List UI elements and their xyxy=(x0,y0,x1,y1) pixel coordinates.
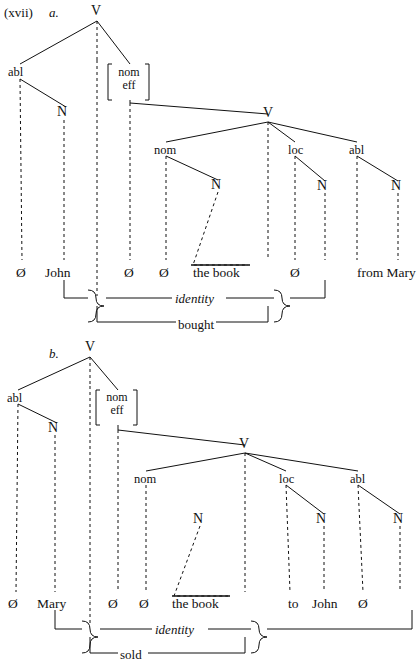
panel-a-brace-left-arm xyxy=(64,280,88,298)
panel-b-edge-loc-n xyxy=(286,485,324,514)
panel-b-proj-abl2 xyxy=(358,485,363,592)
panel-a-edge-bracket-innerv xyxy=(130,103,268,114)
panel-b-edge-abl-n xyxy=(18,404,57,423)
panel-a-triangle-sides xyxy=(193,192,248,265)
panel-a-verb-line-right xyxy=(216,306,268,322)
panel-a-brace-right-arm xyxy=(290,280,325,298)
panel-b-triangle-sides xyxy=(174,526,228,596)
panel-a-edge-root-abl xyxy=(20,21,97,64)
panel-a-edge-innerv-nom xyxy=(166,122,268,142)
panel-a-bracket-right xyxy=(145,64,149,100)
panel-b-proj-abl xyxy=(16,404,18,592)
panel-b-bracket-left xyxy=(96,390,100,425)
panel-a-verb-line-left xyxy=(97,306,176,322)
panel-a-brace-right xyxy=(274,290,290,322)
panel-b-brace-left-arm xyxy=(55,610,82,629)
panel-a-edge-abl-n xyxy=(20,79,66,107)
panel-b-brace-right-arm xyxy=(267,610,412,629)
panel-a-edge-nom-n xyxy=(166,156,218,180)
panel-b-verb-line-right xyxy=(148,637,245,653)
syntax-tree-figure: (xvii) a. b. V abl N nom eff V nom N loc… xyxy=(0,0,419,671)
panel-b-brace-right xyxy=(251,621,267,653)
panel-b-edge-bracket-innerv xyxy=(118,430,245,445)
panel-a-edge-root-bracket xyxy=(97,21,130,64)
panel-a-bracket-left xyxy=(108,64,112,100)
panel-b-verb-line-left xyxy=(90,637,118,653)
panel-b-edge-abl2-n xyxy=(358,485,400,514)
panel-b-edge-innerv-loc xyxy=(245,453,286,471)
panel-b-edge-root-bracket xyxy=(90,357,118,390)
panel-a-edge-abl2-n xyxy=(357,156,398,181)
panel-b-edge-innerv-abl xyxy=(245,453,358,471)
panel-b-bracket-right xyxy=(133,390,137,425)
panel-a-edge-loc-n xyxy=(295,156,325,181)
panel-b-edge-root-abl xyxy=(18,357,90,390)
panel-a-proj-abl xyxy=(20,79,22,260)
panel-b-edge-innerv-nom xyxy=(146,453,245,471)
panel-b-proj-loc xyxy=(286,485,290,592)
tree-lines xyxy=(0,0,419,671)
panel-a-brace-left xyxy=(88,290,104,322)
